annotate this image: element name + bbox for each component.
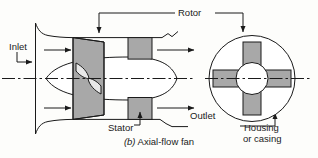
housing-lower-break-symbol — [160, 119, 188, 126]
bellmouth-upper-curve — [36, 23, 73, 38]
rotor-leader-group — [99, 13, 243, 33]
label-rotor: Rotor — [178, 7, 201, 18]
stator-upper-block — [128, 38, 152, 60]
housing-break-symbol — [162, 32, 178, 38]
end-view-group — [205, 36, 312, 122]
label-housing: Housing — [244, 122, 279, 133]
caption-text: Axial-flow fan — [136, 136, 195, 147]
label-inlet: Inlet — [9, 41, 27, 52]
label-stator: Stator — [108, 122, 133, 133]
bellmouth-lower-curve — [36, 119, 73, 134]
figure-page: Rotor Inlet Stator Outlet Housing or cas… — [0, 0, 318, 158]
rotor-leader-right — [215, 13, 243, 32]
rotor-leader-left — [99, 13, 175, 33]
figure-caption: (b) Axial-flow fan — [0, 136, 318, 147]
caption-marker: (b) — [124, 136, 136, 147]
label-outlet: Outlet — [190, 110, 215, 121]
inlet-leader — [17, 52, 32, 62]
